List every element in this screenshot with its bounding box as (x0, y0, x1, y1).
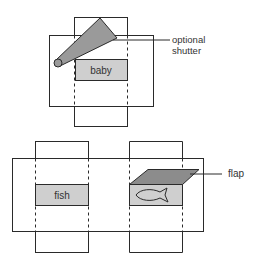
shutter-label-line2: shutter (172, 45, 201, 56)
fish-picture-window (130, 185, 183, 206)
shutter-pivot-icon (54, 59, 62, 67)
fish-label: fish (54, 190, 70, 201)
flap-label: flap (228, 168, 245, 179)
shutter-label-line1: optional (172, 34, 205, 45)
baby-label: baby (90, 65, 112, 76)
diagram-canvas: baby optional shutter fish flap (0, 0, 262, 269)
